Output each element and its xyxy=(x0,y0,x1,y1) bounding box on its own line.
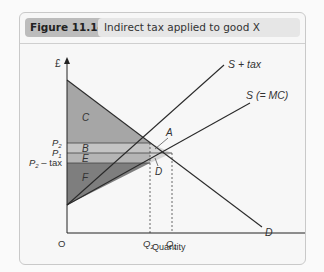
y-axis-label: £ xyxy=(55,58,61,69)
area-d-label: D xyxy=(155,166,162,177)
q2-label: Q2 xyxy=(143,238,154,250)
area-b xyxy=(67,143,150,153)
area-e-label: E xyxy=(82,153,89,164)
area-c-label: C xyxy=(82,112,90,123)
area-e xyxy=(67,153,150,163)
area-a-label: A xyxy=(165,127,173,138)
origin-label: O xyxy=(58,238,65,249)
demand-label: D xyxy=(265,226,273,238)
q1-label: Q1 xyxy=(166,238,177,250)
area-d xyxy=(150,153,172,163)
area-f-label: F xyxy=(82,172,89,183)
y-axis-arrow-icon xyxy=(64,57,70,64)
area-f xyxy=(67,163,150,205)
supply-tax-label: S + tax xyxy=(228,58,262,70)
supply-label: S (= MC) xyxy=(246,89,288,101)
economics-diagram: £ O Quantity P2 P1 P2 – tax Q2 Q1 C B E … xyxy=(0,0,324,272)
p2-tax-label: P2 – tax xyxy=(29,157,62,169)
